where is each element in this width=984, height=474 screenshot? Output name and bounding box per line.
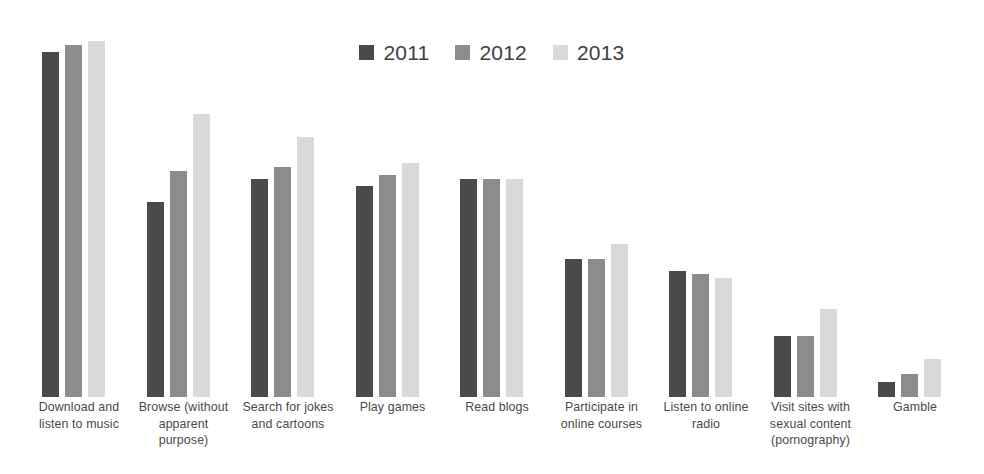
category-label-2: Browse (withoutapparentpurpose)	[125, 399, 243, 449]
category-label-line: listen to music	[20, 416, 138, 433]
bar-2011-group-7[interactable]	[669, 271, 686, 397]
category-label-4: Play games	[334, 399, 452, 416]
bar-group-4	[356, 0, 431, 397]
bar-2012-group-2[interactable]	[170, 171, 187, 397]
category-axis-labels: Download andlisten to musicBrowse (witho…	[0, 399, 984, 474]
category-label-line: Browse (without	[125, 399, 243, 416]
bar-2012-group-8[interactable]	[797, 336, 814, 397]
bar-2011-group-2[interactable]	[147, 202, 164, 397]
category-label-line: Play games	[334, 399, 452, 416]
bar-group-6	[565, 0, 640, 397]
bar-2012-group-1[interactable]	[65, 45, 82, 397]
bar-2013-group-1[interactable]	[88, 41, 105, 397]
bar-group-2	[147, 0, 222, 397]
bar-2012-group-4[interactable]	[379, 175, 396, 397]
category-label-line: Search for jokes	[229, 399, 347, 416]
category-label-9: Gamble	[856, 399, 974, 416]
bar-2012-group-7[interactable]	[692, 274, 709, 397]
category-label-line: Read blogs	[438, 399, 556, 416]
bar-2012-group-3[interactable]	[274, 167, 291, 397]
category-label-8: Visit sites withsexual content(pornograp…	[752, 399, 870, 449]
bar-2011-group-3[interactable]	[251, 179, 268, 397]
bar-2012-group-5[interactable]	[483, 179, 500, 397]
bar-group-8	[774, 0, 849, 397]
bar-2011-group-6[interactable]	[565, 259, 582, 397]
category-label-line: Visit sites with	[752, 399, 870, 416]
bar-2013-group-2[interactable]	[193, 114, 210, 397]
bar-2012-group-9[interactable]	[901, 374, 918, 397]
bar-2013-group-4[interactable]	[402, 163, 419, 397]
bar-2013-group-7[interactable]	[715, 278, 732, 397]
category-label-line: purpose)	[125, 432, 243, 449]
category-label-line: Listen to online	[647, 399, 765, 416]
bar-2013-group-6[interactable]	[611, 244, 628, 397]
bar-2011-group-5[interactable]	[460, 179, 477, 397]
category-label-5: Read blogs	[438, 399, 556, 416]
category-label-line: and cartoons	[229, 416, 347, 433]
bar-group-3	[251, 0, 326, 397]
bar-group-1	[42, 0, 117, 397]
bar-2013-group-9[interactable]	[924, 359, 941, 397]
plot-area	[0, 0, 984, 397]
category-label-line: radio	[647, 416, 765, 433]
bar-group-9	[878, 0, 953, 397]
category-label-6: Participate inonline courses	[543, 399, 661, 432]
category-label-7: Listen to onlineradio	[647, 399, 765, 432]
bar-group-7	[669, 0, 744, 397]
category-label-line: Download and	[20, 399, 138, 416]
bar-2011-group-8[interactable]	[774, 336, 791, 397]
bar-2013-group-3[interactable]	[297, 137, 314, 397]
bar-chart: 201120122013 Download andlisten to music…	[0, 0, 984, 474]
category-label-line: (pornography)	[752, 432, 870, 449]
category-label-line: apparent	[125, 416, 243, 433]
category-label-line: sexual content	[752, 416, 870, 433]
bar-2012-group-6[interactable]	[588, 259, 605, 397]
bar-2011-group-4[interactable]	[356, 186, 373, 397]
category-label-3: Search for jokesand cartoons	[229, 399, 347, 432]
bar-2013-group-8[interactable]	[820, 309, 837, 397]
category-label-1: Download andlisten to music	[20, 399, 138, 432]
bar-group-5	[460, 0, 535, 397]
bar-2011-group-1[interactable]	[42, 52, 59, 397]
bar-2011-group-9[interactable]	[878, 382, 895, 397]
category-label-line: online courses	[543, 416, 661, 433]
category-label-line: Participate in	[543, 399, 661, 416]
bar-2013-group-5[interactable]	[506, 179, 523, 397]
category-label-line: Gamble	[856, 399, 974, 416]
